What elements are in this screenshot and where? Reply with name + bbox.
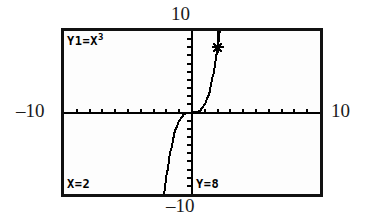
equation-exponent: 3 xyxy=(98,32,104,42)
y-coordinate-readout: Y=8 xyxy=(195,177,220,192)
axis-label-x-max: 10 xyxy=(331,101,350,120)
calculator-screen[interactable]: Y1=X3 X=2 Y=8 xyxy=(61,28,323,197)
axis-label-y-min: –10 xyxy=(166,196,195,215)
axis-label-x-min: –10 xyxy=(16,101,45,120)
graph-canvas xyxy=(64,31,320,194)
x-coordinate-readout: X=2 xyxy=(66,177,91,192)
equation-label: Y1=X3 xyxy=(66,34,105,49)
axis-label-y-max: 10 xyxy=(171,4,190,23)
trace-cursor[interactable] xyxy=(212,41,224,53)
equation-label-text: Y1=X xyxy=(67,34,98,48)
plot-area[interactable]: Y1=X3 X=2 Y=8 xyxy=(64,31,320,194)
